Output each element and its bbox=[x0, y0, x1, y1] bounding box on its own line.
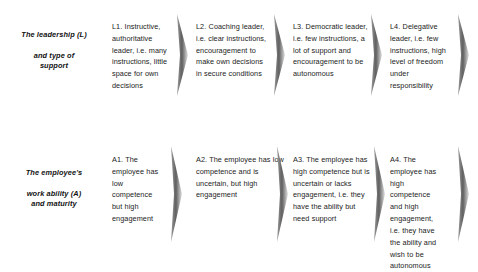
chevron-divider-icon bbox=[369, 14, 385, 96]
chevron-divider-icon bbox=[372, 146, 388, 242]
chevron-divider-icon bbox=[456, 14, 472, 96]
leadership-cell-l1: L1. Instructive, authoritative leader, i… bbox=[112, 21, 174, 92]
employee-cell-a4: A4. The employee has high competence and… bbox=[390, 154, 442, 272]
chevron-divider-icon bbox=[456, 146, 472, 242]
employee-cell-a1: A1. The employee has low competence but … bbox=[112, 154, 164, 225]
leadership-row-label: The leadership (L) and type of support bbox=[2, 30, 106, 71]
leadership-cell-l2: L2. Coaching leader, i.e. clear instruct… bbox=[196, 21, 268, 80]
leadership-cell-l3: L3. Democratic leader, i.e. few instruct… bbox=[293, 21, 371, 80]
chevron-divider-icon bbox=[275, 146, 291, 242]
employee-cell-a3: A3. The employee has high competence but… bbox=[293, 154, 371, 225]
leadership-row: The leadership (L) and type of support L… bbox=[0, 8, 478, 120]
leadership-label-line-2: and type of bbox=[2, 51, 106, 61]
employee-label-line-2: work ability (A) bbox=[2, 189, 106, 199]
employee-cell-a2: A2. The employee has low competence and … bbox=[196, 154, 284, 201]
employee-row: The employee's work ability (A) and matu… bbox=[0, 142, 478, 262]
employee-row-label: The employee's work ability (A) and matu… bbox=[2, 168, 106, 209]
leadership-cell-l4: L4. Delegative leader, i.e. few instruct… bbox=[390, 21, 452, 92]
chevron-divider-icon bbox=[272, 14, 288, 96]
chevron-divider-icon bbox=[175, 14, 191, 96]
employee-label-line-3: and maturity bbox=[2, 199, 106, 209]
leadership-label-line-1: The leadership (L) bbox=[21, 30, 86, 39]
leadership-label-line-3: support bbox=[2, 61, 106, 71]
employee-label-line-1: The employee's bbox=[26, 168, 83, 177]
chevron-divider-icon bbox=[169, 146, 185, 242]
